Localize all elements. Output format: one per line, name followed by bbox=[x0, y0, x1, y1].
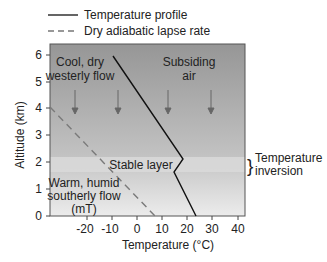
y-tick-3: 3 bbox=[35, 128, 42, 142]
y-tick-6: 6 bbox=[35, 48, 42, 62]
x-tick-10: 10 bbox=[155, 222, 169, 236]
label-inversion-2: inversion bbox=[255, 164, 303, 178]
x-axis-label: Temperature (°C) bbox=[122, 238, 214, 252]
x-tick-neg20: -20 bbox=[76, 222, 94, 236]
x-tick-neg10: -10 bbox=[101, 222, 119, 236]
y-tick-1: 1 bbox=[35, 182, 42, 196]
label-subsiding-1: Subsiding bbox=[163, 55, 216, 69]
x-axis bbox=[87, 216, 238, 220]
label-cool-dry-1: Cool, dry bbox=[56, 55, 104, 69]
label-warm-3: (mT) bbox=[71, 202, 96, 216]
y-axis-label: Altitude (km) bbox=[13, 101, 27, 168]
x-tick-20: 20 bbox=[180, 222, 194, 236]
label-stable-layer: Stable layer bbox=[109, 158, 172, 172]
label-warm-2: southerly flow bbox=[47, 189, 121, 203]
y-tick-5: 5 bbox=[35, 75, 42, 89]
legend: Temperature profile Dry adiabatic lapse … bbox=[48, 8, 210, 38]
y-tick-0: 0 bbox=[35, 209, 42, 223]
label-inversion-1: Temperature bbox=[255, 151, 323, 165]
x-tick-0: 0 bbox=[134, 222, 141, 236]
y-tick-2: 2 bbox=[35, 155, 42, 169]
brace-icon: } bbox=[247, 155, 253, 176]
label-warm-1: Warm, humid bbox=[49, 176, 120, 190]
label-subsiding-2: air bbox=[182, 69, 195, 83]
legend-label-temperature-profile: Temperature profile bbox=[84, 8, 188, 22]
temperature-inversion-diagram: Temperature profile Dry adiabatic lapse … bbox=[0, 0, 327, 262]
x-tick-30: 30 bbox=[205, 222, 219, 236]
x-tick-40: 40 bbox=[231, 222, 245, 236]
label-cool-dry-2: westerly flow bbox=[45, 69, 115, 83]
legend-label-dry-adiabatic: Dry adiabatic lapse rate bbox=[84, 24, 210, 38]
y-tick-4: 4 bbox=[35, 101, 42, 115]
